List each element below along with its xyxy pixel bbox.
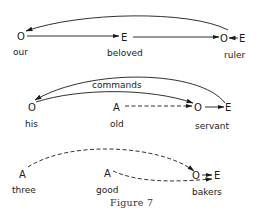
node-symbol: E: [239, 33, 245, 44]
arc-three-to-bakers: [28, 149, 194, 171]
node-symbol: O: [194, 102, 202, 113]
node-symbol: O: [192, 170, 200, 181]
dependency-diagram: O our E beloved O E ruler commands O his…: [0, 0, 259, 221]
node-symbol: A: [19, 169, 26, 180]
node-symbol: A: [113, 102, 120, 113]
node-symbol: O: [17, 31, 25, 42]
node-symbol: E: [225, 102, 231, 113]
arc-label-commands: commands: [92, 80, 142, 90]
node-symbol: E: [121, 32, 127, 43]
node-word-three: three: [12, 185, 36, 195]
node-word-bakers: bakers: [192, 187, 222, 197]
node-word-ruler: ruler: [224, 50, 245, 60]
row-1: O our E beloved O E ruler: [13, 16, 245, 60]
node-symbol: O: [220, 33, 228, 44]
node-word-our: our: [13, 47, 28, 57]
node-symbol: A: [104, 168, 111, 179]
node-word-servant: servant: [195, 121, 229, 131]
node-symbol: E: [214, 170, 220, 181]
node-word-his: his: [25, 119, 38, 129]
node-word-old: old: [110, 119, 124, 129]
row-3: A three A good O E bakers: [12, 149, 222, 197]
node-word-good: good: [96, 185, 118, 195]
figure-caption: Figure 7: [110, 197, 153, 208]
arc-ruler-to-our: [26, 16, 228, 31]
row-2: commands O his A old O E servant: [25, 77, 231, 131]
node-word-beloved: beloved: [107, 48, 143, 58]
node-symbol: O: [28, 102, 36, 113]
